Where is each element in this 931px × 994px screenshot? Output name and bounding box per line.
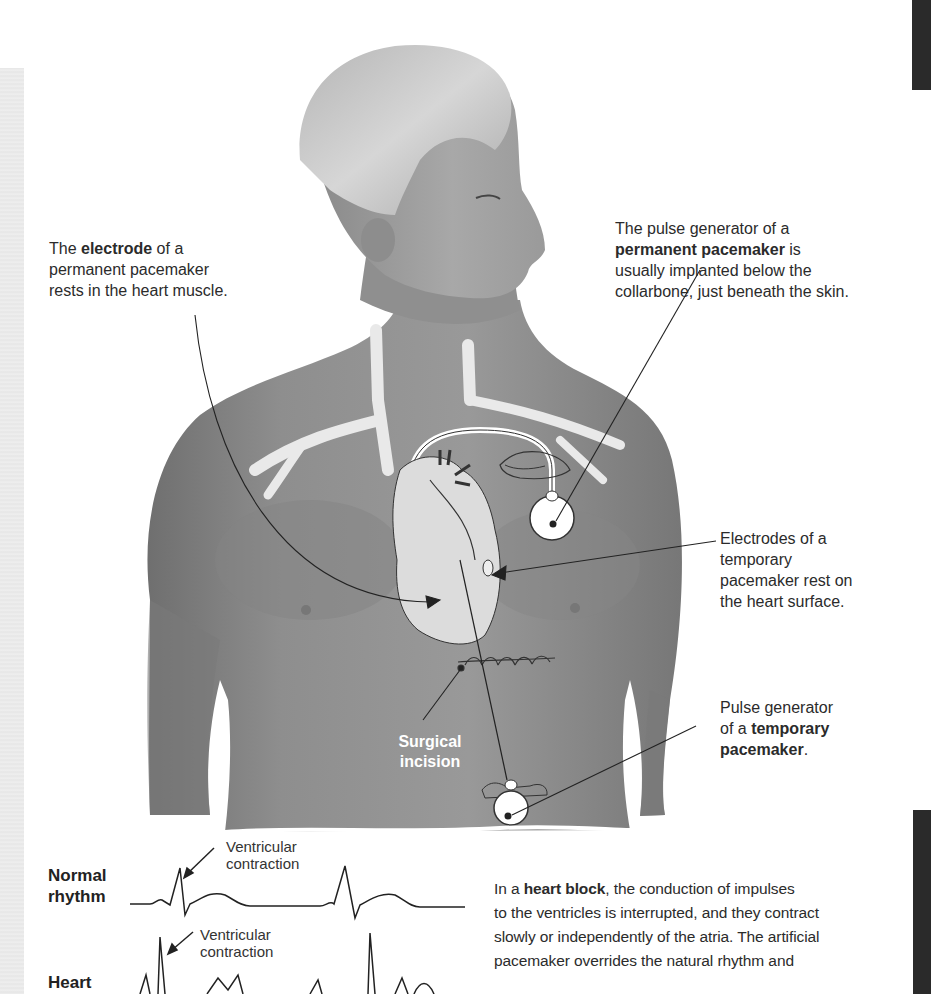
body-text: slowly or independently of the atria. Th… <box>494 925 914 949</box>
label-permanent-electrode: The electrode of a permanent pacemaker r… <box>49 238 228 301</box>
body-text: , the conduction of impulses <box>605 880 794 897</box>
body-text: pacemaker overrides the natural rhythm a… <box>494 949 914 973</box>
label-text: of a <box>720 720 751 737</box>
body-text: In a <box>494 880 524 897</box>
label-text: usually implanted below the <box>615 260 849 281</box>
annotation-text: contraction <box>226 855 299 872</box>
head <box>300 45 545 298</box>
label-text: rests in the heart muscle. <box>49 280 228 301</box>
label-text: collarbone, just beneath the skin. <box>615 281 849 302</box>
ecg-title-text: Heart <box>48 972 91 993</box>
label-text: pacemaker rest on <box>720 570 853 591</box>
label-surgical-incision: Surgical incision <box>380 732 480 772</box>
label-text: Surgical <box>380 732 480 752</box>
body-text: to the ventricles is interrupted, and th… <box>494 901 914 925</box>
label-text: permanent pacemaker <box>49 259 228 280</box>
ecg-title-text: rhythm <box>48 886 107 907</box>
label-term-temporary: temporary <box>751 720 829 737</box>
label-temporary-electrodes: Electrodes of a temporary pacemaker rest… <box>720 528 853 612</box>
term-heart-block: heart block <box>524 880 606 897</box>
label-permanent-pulse-generator: The pulse generator of a permanent pacem… <box>615 218 849 302</box>
label-text: The pulse generator of a <box>615 218 849 239</box>
ecg-title-text: Normal <box>48 865 107 886</box>
label-text: Electrodes of a <box>720 528 853 549</box>
label-text: is <box>785 241 801 258</box>
label-text: The <box>49 240 81 257</box>
pacemaker-illustration <box>0 0 931 994</box>
label-term-electrode: electrode <box>81 240 152 257</box>
label-term-permanent-pacemaker: permanent pacemaker <box>615 241 785 258</box>
label-text: . <box>804 741 808 758</box>
ecg-heart-block-trace <box>140 932 434 994</box>
ecg-heart-block-title: Heart <box>48 972 91 993</box>
label-text: temporary <box>720 549 853 570</box>
annotation-text: contraction <box>200 943 273 960</box>
label-text: incision <box>380 752 480 772</box>
ecg-normal-annotation: Ventricular contraction <box>226 838 299 872</box>
ecg-normal-title: Normal rhythm <box>48 865 107 907</box>
heart-block-description: In a heart block, the conduction of impu… <box>494 877 914 973</box>
annotation-text: Ventricular <box>226 838 299 855</box>
label-text: of a <box>152 240 183 257</box>
label-temporary-pulse-generator: Pulse generator of a temporary pacemaker… <box>720 697 833 760</box>
ecg-heart-block-annotation: Ventricular contraction <box>200 926 273 960</box>
annotation-text: Ventricular <box>200 926 273 943</box>
label-term-pacemaker: pacemaker <box>720 741 804 758</box>
label-text: Pulse generator <box>720 697 833 718</box>
label-text: the heart surface. <box>720 591 853 612</box>
